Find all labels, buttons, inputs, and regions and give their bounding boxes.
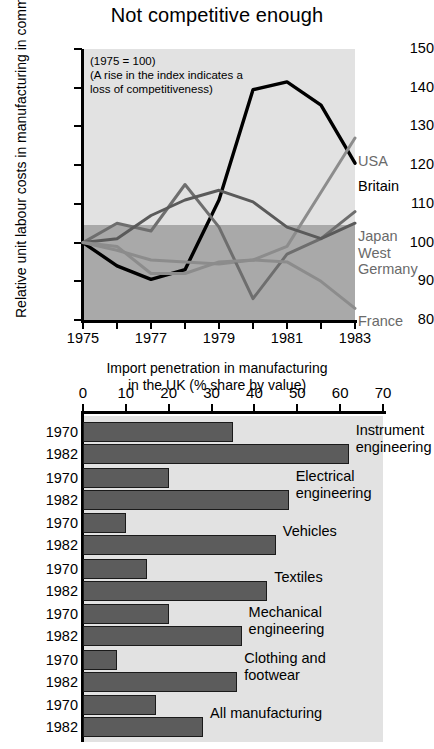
bar-1970-electrical-engineering [83, 468, 169, 488]
bar-category-label-all-manufacturing: All manufacturing [210, 705, 322, 722]
bar-plot-background [83, 416, 383, 742]
bar-1970-all-manufacturing [83, 695, 156, 715]
bar-x-tick [382, 404, 384, 412]
figure-root: Not competitive enough 80901001101201301… [0, 0, 434, 749]
bar-x-tick [125, 404, 127, 412]
bar-x-tick-label: 70 [363, 384, 403, 401]
bar-category-label-vehicles: Vehicles [283, 523, 337, 540]
bar-year-label: 1982 [34, 446, 78, 462]
bar-1982-vehicles [83, 535, 276, 555]
bar-1982-textiles [83, 581, 267, 601]
bar-x-tick-label: 30 [192, 384, 232, 401]
page-title: Not competitive enough [0, 4, 434, 26]
bar-year-label: 1982 [34, 719, 78, 735]
bar-year-label: 1982 [34, 583, 78, 599]
bar-x-tick-label: 50 [277, 384, 317, 401]
bar-1982-instrument-engineering [83, 444, 349, 464]
bar-1982-electrical-engineering [83, 490, 289, 510]
bar-category-label-instrument-engineering: Instrument engineering [356, 422, 432, 456]
bar-category-label-textiles: Textiles [274, 569, 322, 586]
bar-year-label: 1970 [34, 606, 78, 622]
line-series-france [83, 243, 355, 309]
bar-x-tick-label: 20 [149, 384, 189, 401]
line-series-group [0, 30, 434, 360]
bar-1982-all-manufacturing [83, 717, 203, 737]
bar-category-label-mechanical-engineering: Mechanical engineering [249, 604, 325, 638]
line-series-label-usa: USA [358, 153, 388, 169]
bar-year-label: 1982 [34, 537, 78, 553]
bar-1970-vehicles [83, 513, 126, 533]
bar-x-tick [339, 404, 341, 412]
line-series-label-japan: Japan [358, 228, 398, 244]
bar-x-tick [211, 404, 213, 412]
bar-1970-instrument-engineering [83, 422, 233, 442]
line-series-label-britain: Britain [358, 178, 399, 194]
bar-x-tick [82, 404, 84, 412]
bar-x-tick [168, 404, 170, 412]
bar-chart-panel: Import penetration in manufacturing in t… [0, 360, 434, 749]
bar-1970-clothing-and-footwear [83, 650, 117, 670]
line-series-label-france: France [358, 313, 403, 329]
bar-x-tick [253, 404, 255, 412]
bar-x-tick-label: 60 [320, 384, 360, 401]
bar-year-label: 1970 [34, 561, 78, 577]
bar-category-label-electrical-engineering: Electrical engineering [296, 468, 372, 502]
bar-1970-textiles [83, 559, 147, 579]
bar-x-tick-label: 40 [234, 384, 274, 401]
bar-year-label: 1970 [34, 652, 78, 668]
bar-1982-clothing-and-footwear [83, 672, 237, 692]
bar-category-label-clothing-and-footwear: Clothing and footwear [244, 650, 325, 684]
bar-x-tick-label: 0 [63, 384, 103, 401]
line-chart-panel: 8090100110120130140150 19751977197919811… [0, 30, 434, 360]
bar-year-label: 1982 [34, 674, 78, 690]
line-series-label-west-germany: West Germany [358, 245, 418, 277]
bar-x-tick-label: 10 [106, 384, 146, 401]
line-series-britain [83, 82, 355, 279]
bar-year-label: 1982 [34, 492, 78, 508]
bar-year-label: 1970 [34, 697, 78, 713]
bar-x-tick [296, 404, 298, 412]
bar-year-label: 1982 [34, 628, 78, 644]
bar-year-label: 1970 [34, 470, 78, 486]
bar-year-label: 1970 [34, 424, 78, 440]
bar-year-label: 1970 [34, 515, 78, 531]
bar-1970-mechanical-engineering [83, 604, 169, 624]
bar-1982-mechanical-engineering [83, 626, 242, 646]
